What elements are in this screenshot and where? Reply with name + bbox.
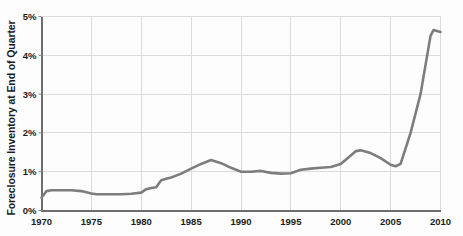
x-tick-label: 1980 xyxy=(131,216,152,227)
x-tick-label: 2010 xyxy=(430,216,451,227)
y-tick-label: 4% xyxy=(23,50,37,61)
y-tick-label: 5% xyxy=(23,11,37,22)
x-tick-label: 1995 xyxy=(280,216,302,227)
foreclosure-inventory-line-chart: Foreclosure Inventory at End of Quarter … xyxy=(0,0,463,236)
vertical-gridlines xyxy=(91,17,440,211)
y-tick-label: 3% xyxy=(23,89,37,100)
chart-axes xyxy=(39,17,441,211)
x-tick-label: 2000 xyxy=(330,216,351,227)
x-tick-label: 1975 xyxy=(81,216,103,227)
chart-plot-area: 0%1%2%3%4%5% 197019751980198519901995200… xyxy=(0,0,463,236)
x-tick-label: 1970 xyxy=(31,216,52,227)
y-tick-label: 1% xyxy=(23,166,37,177)
y-tick-label: 2% xyxy=(23,127,37,138)
x-tick-label: 1990 xyxy=(230,216,251,227)
x-axis-tick-labels: 197019751980198519901995200020052010 xyxy=(31,216,451,227)
x-tick-label: 2005 xyxy=(380,216,402,227)
y-tick-label: 0% xyxy=(23,205,37,216)
y-axis-tick-labels: 0%1%2%3%4%5% xyxy=(23,11,37,216)
x-tick-label: 1985 xyxy=(181,216,203,227)
